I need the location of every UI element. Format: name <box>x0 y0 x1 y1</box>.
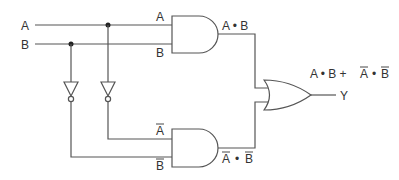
wire-and-top-to-or <box>218 34 270 88</box>
and-bottom-output-label-dot: • <box>235 152 239 166</box>
logic-circuit-diagram: A B A B A • B A B A • B Y A • B + A • <box>0 0 399 180</box>
output-expression-prefix: A • B + <box>310 67 347 81</box>
and-bottom-output-label-a: A <box>222 152 230 166</box>
and-bottom-input-b-label: B <box>156 159 164 173</box>
and-top-input-b-label: B <box>156 46 164 60</box>
output-expression-dot: • <box>372 67 376 81</box>
input-a-label: A <box>21 19 29 33</box>
and-gate-bottom <box>172 129 218 167</box>
and-bottom-output-label-b: B <box>245 152 253 166</box>
output-expression-b: B <box>381 67 389 81</box>
and-top-output-label: A • B <box>222 19 248 33</box>
output-expression-a: A <box>360 67 368 81</box>
wire-and-bottom-to-or <box>218 102 270 148</box>
not-gate-b <box>64 82 78 102</box>
or-gate <box>264 80 311 110</box>
and-gate-top <box>172 16 218 53</box>
not-gate-a <box>101 82 115 102</box>
and-bottom-input-a-label: A <box>156 124 164 138</box>
output-y-label: Y <box>340 89 348 103</box>
input-b-label: B <box>21 38 29 52</box>
and-top-input-a-label: A <box>156 10 164 24</box>
